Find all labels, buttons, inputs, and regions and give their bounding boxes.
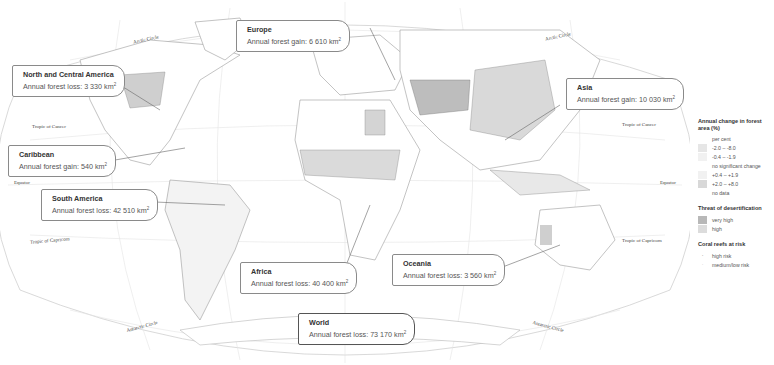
- equator-label-right: Equator: [660, 180, 676, 185]
- legend-swatch: [698, 144, 707, 152]
- coral-low-risk-icon: ·: [698, 261, 707, 269]
- equator-label-left: Equator: [14, 180, 30, 185]
- callout-asia: Asia Annual forest gain: 10 030 km2: [566, 78, 684, 110]
- callout-europe: Europe Annual forest gain: 6 610 km2: [236, 20, 350, 52]
- callout-world: World Annual forest loss: 73 170 km2: [298, 313, 415, 345]
- legend-item: +2.0 – +8.0: [698, 179, 774, 188]
- callout-value: Annual forest gain: 540 km: [19, 162, 105, 171]
- callout-region: North and Central America: [23, 70, 116, 80]
- legend-item: high: [698, 224, 774, 233]
- callout-value: Annual forest gain: 10 030 km: [577, 95, 673, 104]
- legend-desert-title: Threat of desertification: [698, 205, 774, 212]
- legend-swatch: [698, 171, 707, 179]
- legend-swatch: [698, 189, 707, 197]
- legend-item: no significant change: [698, 161, 774, 170]
- callout-caribbean: Caribbean Annual forest gain: 540 km2: [8, 145, 116, 177]
- legend-item: ·medium/low risk: [698, 260, 774, 269]
- tropic-of-cancer-label-left: Tropic of Cancer: [32, 124, 66, 129]
- legend-forest-title: Annual change in forest area (%): [698, 118, 774, 132]
- callout-region: Asia: [577, 83, 675, 93]
- callout-value: Annual forest loss: 3 560 km: [403, 271, 494, 280]
- callout-region: South America: [52, 194, 149, 204]
- callout-region: Africa: [251, 267, 348, 277]
- tropic-of-capricorn-label-right: Tropic of Capricorn: [622, 238, 662, 243]
- callout-value: Annual forest loss: 42 510 km: [52, 206, 147, 215]
- legend-item: very high: [698, 215, 774, 224]
- legend-coral-title: Coral reefs at risk: [698, 241, 774, 248]
- callout-region: World: [309, 318, 406, 328]
- callout-value: Annual forest loss: 3 330 km: [23, 82, 114, 91]
- legend-swatch: [698, 162, 707, 170]
- legend-item: +0.4 – +1.9: [698, 170, 774, 179]
- legend-swatch: [698, 180, 707, 188]
- callout-oceania: Oceania Annual forest loss: 3 560 km2: [392, 254, 505, 286]
- coral-high-risk-icon: ·: [698, 252, 707, 260]
- callout-region: Europe: [247, 25, 341, 35]
- legend-swatch: [698, 153, 707, 161]
- legend-item: no data: [698, 188, 774, 197]
- map-legend: Annual change in forest area (%) per cen…: [698, 118, 774, 269]
- world-map: [0, 0, 690, 365]
- legend-item: -2.0 – -8.0: [698, 143, 774, 152]
- legend-swatch: [698, 216, 707, 224]
- callout-value: Annual forest loss: 40 400 km: [251, 279, 346, 288]
- callout-value: Annual forest gain: 6 610 km: [247, 37, 339, 46]
- callout-region: Caribbean: [19, 150, 107, 160]
- legend-item: -0.4 – -1.9: [698, 152, 774, 161]
- callout-north-central-america: North and Central America Annual forest …: [12, 65, 125, 97]
- tropic-of-cancer-label-right: Tropic of Cancer: [622, 122, 656, 127]
- callout-region: Oceania: [403, 259, 496, 269]
- legend-item: ·high risk: [698, 251, 774, 260]
- callout-south-america: South America Annual forest loss: 42 510…: [41, 189, 158, 221]
- callout-value: Annual forest loss: 73 170 km: [309, 330, 404, 339]
- callout-africa: Africa Annual forest loss: 40 400 km2: [240, 262, 357, 294]
- legend-unit: per cent: [698, 135, 774, 143]
- legend-swatch: [698, 225, 707, 233]
